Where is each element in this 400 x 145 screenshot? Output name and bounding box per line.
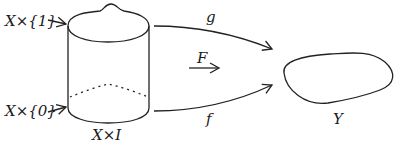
label-x-times-0: X×{0} [4,102,57,120]
label-x-times-1: X×{1} [4,12,57,30]
cylinder-bottom-back-dashed [70,84,148,97]
label-x-times-i: X×I [91,126,122,144]
arrow-f [154,85,272,111]
cylinder-top-boundary [68,4,149,42]
homotopy-diagram: X×{1} X×{0} X×I g F f Y [0,0,400,145]
label-y: Y [333,110,345,128]
space-y-blob [284,53,393,103]
cylinder-x-times-i [68,4,149,123]
arrow-g [154,26,272,49]
label-F: F [196,49,208,67]
label-g: g [206,8,216,26]
cylinder-bottom-front [68,108,149,123]
label-f: f [205,110,214,128]
